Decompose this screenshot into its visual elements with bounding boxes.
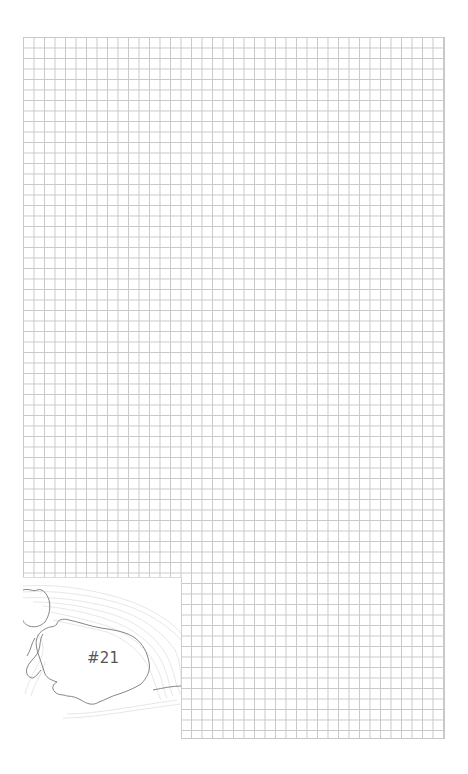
map-label: #21: [87, 649, 119, 667]
inset-map: #21: [23, 577, 182, 739]
